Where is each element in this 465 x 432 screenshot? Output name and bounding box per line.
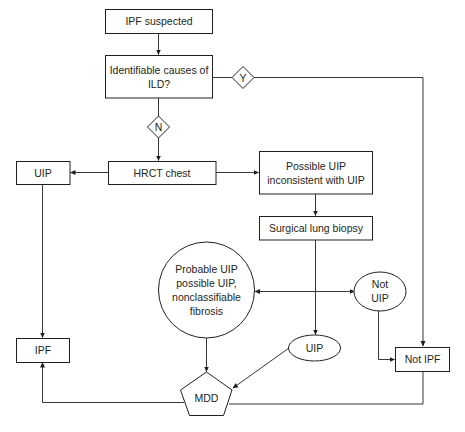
node-surgical-lung-biopsy: Surgical lung biopsy [260, 217, 373, 241]
node-label: UIP [306, 342, 324, 354]
node-label-line-1: Identifiable causes of [110, 64, 209, 76]
node-ipf-suspected: IPF suspected [106, 10, 213, 34]
node-not-uip: Not UIP [354, 272, 406, 311]
node-label-line-4: fibrosis [190, 305, 223, 317]
node-identifiable-causes: Identifiable causes of ILD? [106, 56, 213, 99]
decision-yes-diamond: Y [232, 67, 254, 89]
node-label-line-1: Possible UIP [286, 160, 346, 172]
node-label-line-2: inconsistent with UIP [267, 174, 364, 186]
node-label-line-1: Not [372, 278, 388, 290]
node-label-line-3: nonclassifiable [172, 291, 241, 303]
decision-no-diamond: N [148, 116, 170, 138]
node-label: MDD [195, 392, 219, 404]
node-possible-uip: Possible UIP inconsistent with UIP [260, 152, 373, 195]
node-probable-uip: Probable UIP possible UIP, nonclassifiab… [159, 242, 255, 338]
node-uip-biopsy: UIP [289, 335, 341, 361]
decision-yes-label: Y [239, 72, 246, 84]
edge-uip-biopsy-to-mdd [233, 348, 289, 388]
node-not-ipf: Not IPF [396, 348, 450, 372]
node-mdd: MDD [181, 372, 233, 416]
decision-no-label: N [155, 121, 163, 133]
node-uip-hrct: UIP [17, 162, 71, 185]
edge-mdd-to-ipf [43, 363, 185, 403]
node-label-line-2: UIP [371, 292, 389, 304]
edge-not-uip-to-not-ipf [379, 311, 395, 360]
node-label: IPF [35, 344, 51, 356]
node-label: UIP [34, 167, 52, 179]
node-label: Not IPF [405, 353, 441, 365]
node-label-line-2: ILD? [148, 78, 170, 90]
flowchart-canvas: IPF suspected Identifiable causes of ILD… [0, 0, 465, 432]
node-hrct-chest: HRCT chest [109, 162, 217, 185]
node-label-line-2: possible UIP, [176, 277, 237, 289]
edge-not-ipf-to-mdd [229, 371, 423, 404]
node-label: Surgical lung biopsy [269, 222, 364, 234]
node-ipf: IPF [17, 339, 70, 363]
node-label: HRCT chest [134, 167, 191, 179]
node-label-line-1: Probable UIP [175, 263, 237, 275]
node-label: IPF suspected [125, 15, 192, 27]
